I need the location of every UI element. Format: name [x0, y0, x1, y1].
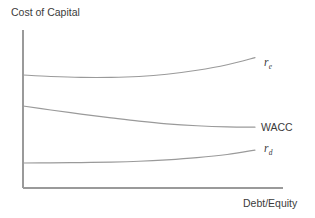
series-label-rd-subscript: d: [269, 148, 273, 157]
series-label-cost-of-debt: rd: [264, 143, 272, 155]
series-label-rd-main: r: [264, 142, 268, 154]
series-label-wacc: WACC: [261, 122, 293, 133]
curve-wacc: [23, 106, 255, 127]
plot-area: [0, 0, 315, 218]
series-label-cost-of-equity: re: [264, 57, 272, 69]
series-label-re-main: r: [264, 56, 268, 68]
y-axis-title: Cost of Capital: [11, 7, 80, 18]
x-axis-title: Debt/Equity: [243, 198, 297, 209]
curve-cost-of-debt: [23, 150, 255, 163]
cost-of-capital-chart: Cost of Capital Debt/Equity re WACC rd: [0, 0, 315, 218]
curve-cost-of-equity: [23, 58, 255, 78]
series-label-re-subscript: e: [269, 62, 272, 71]
